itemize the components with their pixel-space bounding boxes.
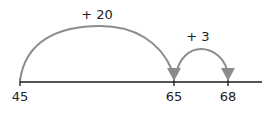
jump-label-plus-20: + 20: [81, 7, 113, 22]
arrowhead-icon: [167, 68, 181, 81]
number-line-diagram: + 20 + 3 45 65 68: [0, 0, 275, 114]
tick-label-68: 68: [220, 89, 237, 104]
arrowhead-icon: [221, 68, 235, 81]
tick-label-65: 65: [166, 89, 183, 104]
tick-label-45: 45: [12, 89, 29, 104]
jump-arc-plus-3: [176, 49, 227, 76]
jump-arc-plus-20: [20, 26, 172, 81]
jump-label-plus-3: + 3: [186, 29, 209, 44]
